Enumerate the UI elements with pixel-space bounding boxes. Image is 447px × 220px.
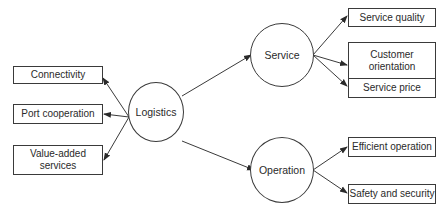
arrow-logistics-port-cooperation bbox=[104, 114, 129, 117]
node-label: Port cooperation bbox=[21, 108, 94, 120]
node-label: Service bbox=[264, 49, 299, 61]
node-label: Safety and security bbox=[349, 188, 434, 200]
node-logistics: Logistics bbox=[128, 82, 184, 142]
node-safety-and-security: Safety and security bbox=[348, 184, 436, 204]
node-service-price: Service price bbox=[348, 78, 436, 98]
node-service: Service bbox=[250, 23, 314, 87]
node-customer-orientation: Customer orientation bbox=[348, 42, 436, 79]
arrow-service-quality bbox=[313, 16, 347, 55]
node-label: Logistics bbox=[136, 106, 177, 118]
arrow-logistics-operation bbox=[182, 141, 254, 170]
node-value-added-services: Value-added services bbox=[13, 145, 103, 175]
arrow-operation-efficient bbox=[313, 147, 347, 170]
node-operation: Operation bbox=[250, 137, 314, 203]
arrow-operation-safety bbox=[313, 170, 347, 193]
node-connectivity: Connectivity bbox=[13, 66, 103, 84]
node-port-cooperation: Port cooperation bbox=[13, 104, 103, 124]
arrow-logistics-service bbox=[182, 55, 251, 96]
node-label: Value-added services bbox=[14, 148, 102, 172]
arrow-logistics-value-added bbox=[104, 117, 129, 160]
node-label: Customer orientation bbox=[357, 49, 427, 73]
node-label: Service quality bbox=[359, 12, 424, 24]
node-label: Operation bbox=[259, 164, 305, 176]
node-efficient-operation: Efficient operation bbox=[348, 137, 436, 157]
node-service-quality: Service quality bbox=[348, 8, 436, 27]
node-label: Service price bbox=[363, 82, 421, 94]
node-label: Connectivity bbox=[31, 69, 85, 81]
arrow-logistics-connectivity bbox=[103, 78, 129, 117]
node-label: Efficient operation bbox=[352, 141, 432, 153]
